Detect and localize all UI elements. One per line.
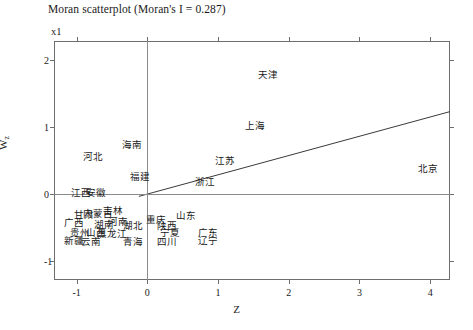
y-tick-label: -1 xyxy=(44,256,52,267)
x-tick-label: 2 xyxy=(286,287,291,298)
x-tick-label: 1 xyxy=(216,287,221,298)
y-axis-title-subscript: z xyxy=(2,136,11,140)
data-point-label: 山东 xyxy=(176,211,196,221)
data-point-label: 四川 xyxy=(157,238,177,248)
x-tick-label: -1 xyxy=(72,287,80,298)
y-tick-mark xyxy=(50,127,54,128)
y-axis-title: Wz xyxy=(0,136,11,150)
x-tick-mark xyxy=(430,280,431,284)
y-tick-label: 1 xyxy=(44,121,49,132)
data-point-label: 吉林 xyxy=(103,206,123,216)
x-tick-mark xyxy=(218,280,219,284)
data-point-label: 安徽 xyxy=(86,188,106,198)
chart-title: Moran scatterplot (Moran's I = 0.287) xyxy=(48,3,226,15)
data-point-label: 海南 xyxy=(122,140,142,150)
x-tick-mark-top xyxy=(289,37,290,41)
x-tick-label: 4 xyxy=(428,287,433,298)
x-tick-label: 0 xyxy=(145,287,150,298)
data-point-label: 云南 xyxy=(81,237,101,247)
data-point-label: 辽宁 xyxy=(198,236,218,246)
data-point-label: 福建 xyxy=(130,173,150,183)
x-tick-mark xyxy=(147,280,148,284)
x-tick-mark xyxy=(77,280,78,284)
data-point-label: 青海 xyxy=(123,237,143,247)
data-point-label: 天津 xyxy=(258,70,278,80)
y-axis-title-main: W xyxy=(0,140,9,150)
x-tick-mark-top xyxy=(218,37,219,41)
x-tick-mark-top xyxy=(430,37,431,41)
data-point-label: 江苏 xyxy=(215,156,235,166)
x-tick-label: 3 xyxy=(357,287,362,298)
horizontal-mean-reference-line xyxy=(54,194,450,195)
y-tick-label: 2 xyxy=(44,54,49,65)
corner-annotation-label: x1 xyxy=(51,26,62,37)
data-point-label: 上海 xyxy=(245,121,265,131)
y-tick-mark-right xyxy=(450,261,454,262)
data-point-label: 河北 xyxy=(83,152,103,162)
y-tick-mark-right xyxy=(450,127,454,128)
moran-scatterplot: Moran scatterplot (Moran's I = 0.287) x1… xyxy=(0,0,473,330)
x-tick-mark-top xyxy=(77,37,78,41)
data-point-label: 广西 xyxy=(64,218,84,228)
data-point-label: 浙江 xyxy=(195,177,215,187)
y-tick-label: 0 xyxy=(44,189,49,200)
vertical-mean-reference-line xyxy=(147,41,148,280)
y-tick-mark-right xyxy=(450,194,454,195)
y-tick-mark-right xyxy=(450,60,454,61)
x-tick-mark-top xyxy=(147,37,148,41)
data-point-label: 北京 xyxy=(418,164,438,174)
y-tick-mark xyxy=(50,194,54,195)
y-tick-mark xyxy=(50,60,54,61)
x-tick-mark xyxy=(359,280,360,284)
x-tick-mark xyxy=(289,280,290,284)
x-tick-mark-top xyxy=(359,37,360,41)
plot-area-frame xyxy=(54,41,450,280)
x-axis-title: Z xyxy=(0,303,473,315)
